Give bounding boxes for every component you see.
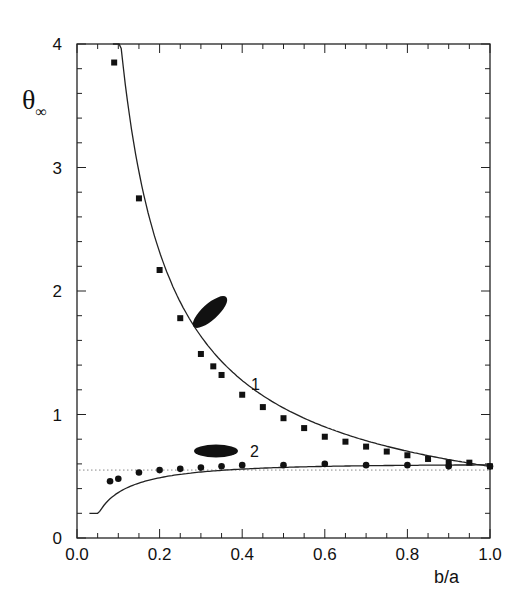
square-marker	[210, 363, 216, 369]
circle-marker	[404, 462, 411, 469]
square-marker	[136, 195, 142, 201]
y-tick-label: 2	[53, 282, 62, 301]
square-marker	[466, 460, 472, 466]
x-tick-label: 0.8	[396, 545, 420, 564]
circle-marker	[363, 462, 370, 469]
square-marker	[260, 404, 266, 410]
circle-marker	[445, 463, 452, 470]
square-marker	[342, 439, 348, 445]
y-tick-label: 3	[53, 159, 62, 178]
square-marker	[198, 351, 204, 357]
square-marker	[404, 452, 410, 458]
circle-marker	[136, 469, 143, 476]
circle-marker	[156, 467, 163, 474]
background	[0, 0, 524, 613]
curve-label-1: 1	[251, 376, 260, 393]
x-tick-label: 0.0	[65, 545, 89, 564]
square-marker	[177, 315, 183, 321]
square-marker	[111, 60, 117, 66]
chart: 0.00.20.40.60.81.001234 1 2 θ∞ b/a	[0, 0, 524, 613]
square-marker	[322, 434, 328, 440]
x-axis-title: b/a	[434, 567, 460, 587]
square-marker	[219, 372, 225, 378]
circle-marker	[280, 462, 287, 469]
circle-marker	[198, 464, 205, 471]
y-tick-label: 4	[53, 35, 62, 54]
square-marker	[425, 456, 431, 462]
circle-marker	[177, 466, 184, 473]
y-tick-label: 1	[53, 406, 62, 425]
y-axis-title-subscript: ∞	[35, 103, 46, 120]
square-marker	[363, 444, 369, 450]
x-tick-label: 1.0	[478, 545, 502, 564]
circle-marker	[115, 475, 122, 482]
curve-label-2: 2	[250, 443, 259, 460]
circle-marker	[239, 462, 246, 469]
circle-marker	[487, 463, 494, 470]
y-axis-title-theta: θ	[22, 84, 35, 115]
circle-marker	[107, 478, 114, 485]
square-marker	[239, 392, 245, 398]
circle-marker	[218, 463, 225, 470]
circle-marker	[322, 461, 329, 468]
oblate-ellipsoid-icon	[194, 445, 238, 458]
square-marker	[384, 449, 390, 455]
x-tick-label: 0.4	[230, 545, 254, 564]
square-marker	[157, 267, 163, 273]
square-marker	[301, 425, 307, 431]
square-marker	[281, 415, 287, 421]
x-tick-label: 0.2	[148, 545, 172, 564]
y-tick-label: 0	[53, 529, 62, 548]
x-tick-label: 0.6	[313, 545, 337, 564]
